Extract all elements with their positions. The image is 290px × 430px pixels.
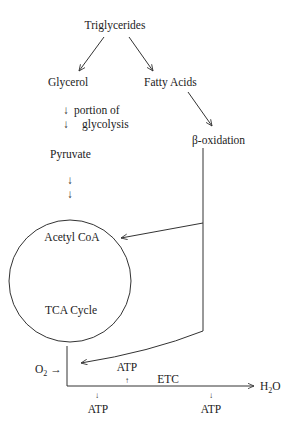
arrow-beta-oxidation-to-acetyl-coa [121,223,203,238]
node-glycerol: Glycerol [48,76,88,89]
label-o2: O2→ [35,363,62,378]
node-fatty-acids: Fatty Acids [144,76,197,89]
label-portion-of: portion of [74,104,120,117]
fat-metabolism-diagram: Triglycerides Glycerol Fatty Acids ↓ por… [0,0,290,430]
label-atp-down-left: ATP [88,403,108,415]
node-beta-oxidation: β-oxidation [192,134,245,147]
label-atp-up: ATP [117,361,137,373]
node-tca-cycle: TCA Cycle [45,304,97,317]
label-etc: ETC [157,373,179,385]
node-triglycerides: Triglycerides [85,19,146,32]
label-glycolysis: glycolysis [82,118,129,131]
label-h2o: H2O [260,380,281,395]
node-pyruvate: Pyruvate [50,148,91,161]
up-arrow-icon: ↑ [125,376,129,385]
label-atp-down-right: ATP [201,403,221,415]
down-arrow-icon: ↓ [67,174,73,186]
arrow-triglycerides-to-glycerol [79,37,104,71]
down-arrow-icon: ↓ [63,118,69,130]
down-arrow-icon: ↓ [67,188,73,200]
right-arrow-icon: → [50,363,62,375]
down-arrow-icon: ↓ [95,391,99,400]
down-arrow-icon: ↓ [63,104,69,116]
node-acetyl-coa: Acetyl CoA [44,231,100,244]
down-arrow-icon: ↓ [209,391,213,400]
arrow-beta-oxidation-to-etc [81,331,203,363]
arrow-triglycerides-to-fatty-acids [129,37,153,71]
arrow-fatty-acids-to-beta-oxidation [188,92,212,126]
